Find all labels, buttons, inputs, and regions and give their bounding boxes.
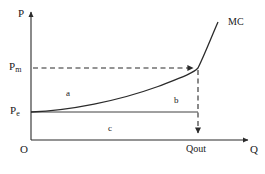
economics-mc-curve-figure: P Q O Pm Pe Qout MC a b c <box>0 0 265 174</box>
figure-caption <box>0 165 265 173</box>
y-axis-label: P <box>18 8 24 19</box>
x-tick-qout: Qout <box>186 144 206 154</box>
region-label-a: a <box>66 89 70 98</box>
y-tick-pe-sub: e <box>16 109 20 118</box>
figure-canvas <box>0 0 265 174</box>
mc-curve <box>31 22 218 112</box>
origin-label: O <box>20 144 28 155</box>
mc-curve-label: MC <box>228 17 244 27</box>
y-tick-pm-sub: m <box>15 65 21 74</box>
region-label-c: c <box>108 124 112 133</box>
region-label-b: b <box>174 96 179 105</box>
x-axis-label: Q <box>250 144 258 155</box>
y-tick-pe: Pe <box>10 105 20 116</box>
y-tick-pm: Pm <box>9 61 21 72</box>
